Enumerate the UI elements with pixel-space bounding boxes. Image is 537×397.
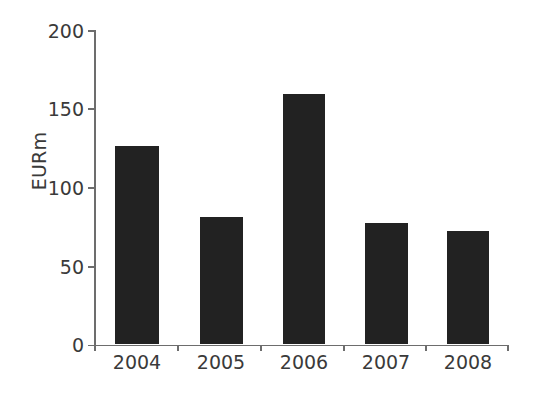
x-tick-label-2007: 2007: [341, 351, 431, 373]
y-tick-mark: [88, 266, 95, 268]
bar-2006: [283, 94, 325, 344]
y-tick-label: 50: [30, 256, 84, 278]
x-tick-label-2006: 2006: [259, 351, 349, 373]
bar-2008: [447, 231, 489, 344]
y-tick-mark: [88, 30, 95, 32]
y-tick-label: 150: [30, 98, 84, 120]
x-axis-line: [94, 345, 508, 347]
y-tick-label: 200: [30, 20, 84, 42]
bar-2004: [115, 146, 159, 344]
plot-area: EURm 200 150 100 50 0 2004 2005 2006 2: [0, 0, 537, 397]
x-tick-label-2004: 2004: [92, 351, 182, 373]
bar-2007: [365, 223, 408, 344]
bar-chart: EURm 200 150 100 50 0 2004 2005 2006 2: [0, 0, 537, 397]
x-tick-label-2005: 2005: [176, 351, 266, 373]
y-tick-mark: [88, 187, 95, 189]
x-tick-label-2008: 2008: [423, 351, 513, 373]
y-tick-label: 0: [30, 334, 84, 356]
y-tick-label: 100: [30, 177, 84, 199]
y-axis-title: EURm: [28, 106, 50, 216]
bar-2005: [200, 217, 243, 344]
y-tick-mark: [88, 108, 95, 110]
